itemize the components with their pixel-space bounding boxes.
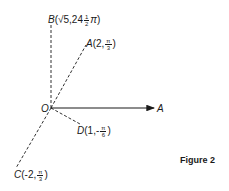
axis-label-a: A (157, 104, 164, 114)
origin-label: O (41, 104, 49, 114)
ray-to-c (16, 108, 51, 168)
point-b-label: B(√5,2412π) (48, 14, 100, 27)
point-a-label: A(2,π3) (86, 38, 116, 51)
point-c-label: C(-2,π3) (14, 169, 48, 182)
polar-coordinates-diagram: O A B(√5,2412π) A(2,π3) D(1,-π6) C(-2,π3… (0, 0, 229, 191)
ray-to-d (51, 108, 80, 124)
ray-to-a (51, 45, 86, 108)
figure-caption: Figure 2 (180, 155, 215, 165)
point-d-label: D(1,-π6) (77, 125, 111, 138)
